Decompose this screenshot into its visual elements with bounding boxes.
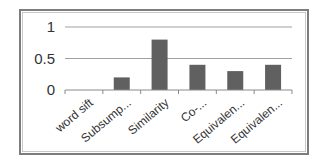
bar xyxy=(265,65,281,90)
bar xyxy=(152,40,168,90)
y-tick-label: 0.5 xyxy=(34,50,55,67)
bar xyxy=(114,77,130,90)
bars xyxy=(114,40,281,90)
y-axis-labels: 00.51 xyxy=(34,18,55,98)
bar-chart: 00.51 word siftSubsump...SimilarityCo-..… xyxy=(0,0,327,168)
x-axis-labels: word siftSubsump...SimilarityCo-...Equiv… xyxy=(52,95,285,146)
x-category-label: Co-... xyxy=(178,96,209,126)
gridlines xyxy=(65,27,292,59)
y-tick-label: 1 xyxy=(47,18,55,35)
x-category-label: Similarity xyxy=(125,96,171,138)
bar xyxy=(189,65,205,90)
y-tick-label: 0 xyxy=(47,81,55,98)
x-axis xyxy=(65,90,292,94)
bar xyxy=(227,71,243,90)
